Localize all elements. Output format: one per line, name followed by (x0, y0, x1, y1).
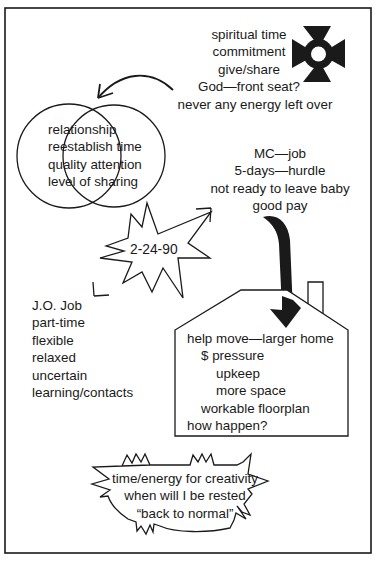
relationship-block: relationship reestablish time quality at… (48, 121, 142, 191)
jo-job-line: J.O. Job (32, 297, 133, 314)
jo-job-line: uncertain (32, 367, 133, 384)
jo-job-line: relaxed (32, 349, 133, 366)
home-line: how happen? (187, 417, 334, 434)
date-label: 2-24-90 (130, 241, 178, 258)
spiritual-line: give/share (160, 61, 320, 78)
home-line: upkeep (187, 365, 334, 382)
mc-job-line: good pay (200, 197, 360, 214)
creativity-line: when will I be rested (100, 487, 270, 504)
home-block: help move—larger home $ pressure upkeep … (187, 330, 334, 434)
relationship-line: reestablish time (48, 138, 142, 155)
relationship-line: quality attention (48, 156, 142, 173)
creativity-block: time/energy for creativity when will I b… (100, 470, 270, 522)
jo-job-block: J.O. Job part-time flexible relaxed unce… (32, 297, 133, 401)
spiritual-line: God—front seat? (160, 78, 320, 95)
jo-job-line: learning/contacts (32, 384, 133, 401)
mc-job-block: MC—job 5-days—hurdle not ready to leave … (200, 145, 360, 215)
home-line: $ pressure (187, 347, 334, 364)
home-line: help move—larger home (187, 330, 334, 347)
creativity-line: time/energy for creativity (100, 470, 270, 487)
relationship-line: level of sharing (48, 173, 142, 190)
home-line: more space (187, 382, 334, 399)
mc-job-line: MC—job (200, 145, 360, 162)
relationship-line: relationship (48, 121, 142, 138)
mc-job-line: not ready to leave baby (200, 180, 360, 197)
jo-job-line: part-time (32, 314, 133, 331)
spiritual-block: spiritual time commitment give/share God… (160, 26, 320, 96)
creativity-line: “back to normal” (100, 505, 270, 522)
jo-job-line: flexible (32, 332, 133, 349)
mc-job-line: 5-days—hurdle (200, 162, 360, 179)
spiritual-note: never any energy left over (160, 96, 350, 113)
spiritual-line: spiritual time (160, 26, 320, 43)
home-line: workable floorplan (187, 400, 334, 417)
spiritual-line: commitment (160, 43, 320, 60)
